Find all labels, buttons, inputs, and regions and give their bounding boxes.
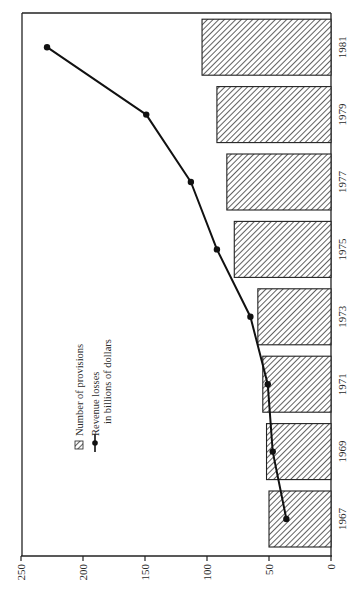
legend-label-revenue-units: in billions of dollars <box>102 339 113 424</box>
data-point-1973 <box>247 314 253 320</box>
bar-1973 <box>258 289 331 345</box>
bars <box>202 19 331 547</box>
value-tick-label: 200 <box>77 564 89 581</box>
value-tick-label: 150 <box>139 564 151 581</box>
category-label-1979: 1979 <box>336 103 348 126</box>
hatched-square-icon <box>75 441 83 449</box>
legend-label-revenue: Revenue losses <box>90 372 101 436</box>
value-tick-label: 250 <box>15 564 27 581</box>
data-point-1981 <box>44 44 50 50</box>
category-label-1971: 1971 <box>336 373 348 395</box>
category-label-1973: 1973 <box>336 305 348 328</box>
data-point-1979 <box>143 111 149 117</box>
value-tick-label: 0 <box>325 564 337 570</box>
legend: Number of provisions Revenue losses in b… <box>74 339 113 452</box>
value-axis-ticks: 050100150200250 <box>15 556 337 581</box>
bar-1977 <box>227 154 331 210</box>
category-label-1967: 1967 <box>336 508 348 531</box>
value-tick-label: 50 <box>263 564 275 576</box>
legend-label-provisions: Number of provisions <box>74 344 85 436</box>
chart: 050100150200250 196719691971197319751977… <box>0 0 360 604</box>
data-point-1975 <box>214 246 220 252</box>
bar-1975 <box>234 221 331 277</box>
data-point-1967 <box>283 516 289 522</box>
bar-1967 <box>269 491 331 547</box>
category-labels: 19671969197119731975197719791981 <box>336 36 348 530</box>
category-label-1981: 1981 <box>336 36 348 58</box>
data-point-1977 <box>188 179 194 185</box>
value-tick-label: 100 <box>201 564 213 581</box>
category-label-1975: 1975 <box>336 238 348 261</box>
data-point-1969 <box>270 448 276 454</box>
legend-item-revenue: Revenue losses in billions of dollars <box>90 339 113 452</box>
bar-1971 <box>263 356 331 412</box>
bar-1979 <box>217 87 331 143</box>
category-label-1977: 1977 <box>336 171 348 194</box>
legend-item-provisions: Number of provisions <box>74 344 85 449</box>
data-point-1971 <box>265 381 271 387</box>
bar-1981 <box>202 19 331 75</box>
category-label-1969: 1969 <box>336 440 348 463</box>
